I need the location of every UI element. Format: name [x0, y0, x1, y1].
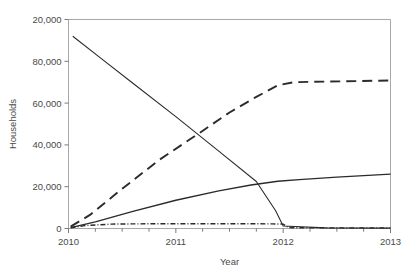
x-tick-label: 2012: [273, 236, 294, 247]
line-chart: 020,00040,00060,00080,00020,000 20102011…: [0, 0, 419, 276]
y-tick-label: 0: [56, 223, 61, 234]
y-tick-label: 20,000: [32, 14, 61, 25]
x-tick-label: 2011: [166, 236, 186, 247]
x-axis-title: Year: [220, 256, 239, 267]
x-tick-label: 2010: [58, 236, 79, 247]
y-tick-label: 20,000: [32, 181, 61, 192]
y-axis-title: Households: [7, 99, 18, 149]
x-tick-label: 2013: [380, 236, 401, 247]
y-tick-label: 40,000: [32, 139, 61, 150]
y-tick-label: 80,000: [32, 56, 61, 67]
y-tick-label: 60,000: [32, 98, 61, 109]
chart-container: 020,00040,00060,00080,00020,000 20102011…: [0, 0, 419, 276]
